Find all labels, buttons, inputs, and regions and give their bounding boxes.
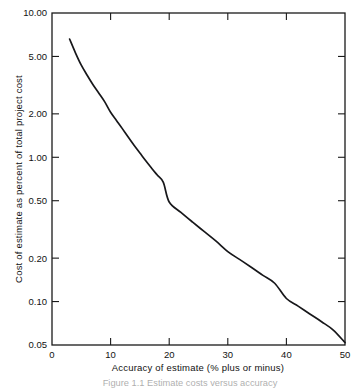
y-tick-label: 1.00 bbox=[29, 152, 48, 163]
x-axis-title: Accuracy of estimate (% plus or minus) bbox=[112, 362, 284, 373]
cost-accuracy-curve bbox=[70, 39, 345, 343]
plot-frame bbox=[52, 13, 345, 345]
y-axis-title: Cost of estimate as percent of total pro… bbox=[13, 75, 24, 283]
x-tick-label: 20 bbox=[164, 349, 175, 360]
chart-canvas: 10.005.002.001.000.500.200.100.05 010203… bbox=[0, 0, 361, 388]
x-tick-label: 50 bbox=[340, 349, 351, 360]
x-tick-label: 10 bbox=[105, 349, 116, 360]
x-tick-label: 40 bbox=[281, 349, 292, 360]
y-tick-label: 5.00 bbox=[29, 51, 48, 62]
y-tick-label: 2.00 bbox=[29, 108, 48, 119]
y-tick-label: 0.10 bbox=[29, 296, 48, 307]
y-tick-label: 0.50 bbox=[29, 195, 48, 206]
y-tick-label: 0.20 bbox=[29, 253, 48, 264]
figure-container: 10.005.002.001.000.500.200.100.05 010203… bbox=[0, 0, 361, 388]
y-tick-label: 10.00 bbox=[23, 7, 47, 18]
x-tick-label: 0 bbox=[49, 349, 54, 360]
y-tick-label: 0.05 bbox=[29, 339, 48, 350]
figure-caption: Figure 1.1 Estimate costs versus accurac… bbox=[103, 378, 278, 388]
y-tick-labels: 10.005.002.001.000.500.200.100.05 bbox=[23, 7, 47, 350]
x-tick-labels: 01020304050 bbox=[49, 349, 350, 360]
x-tick-label: 30 bbox=[223, 349, 234, 360]
tick-marks bbox=[52, 13, 345, 345]
